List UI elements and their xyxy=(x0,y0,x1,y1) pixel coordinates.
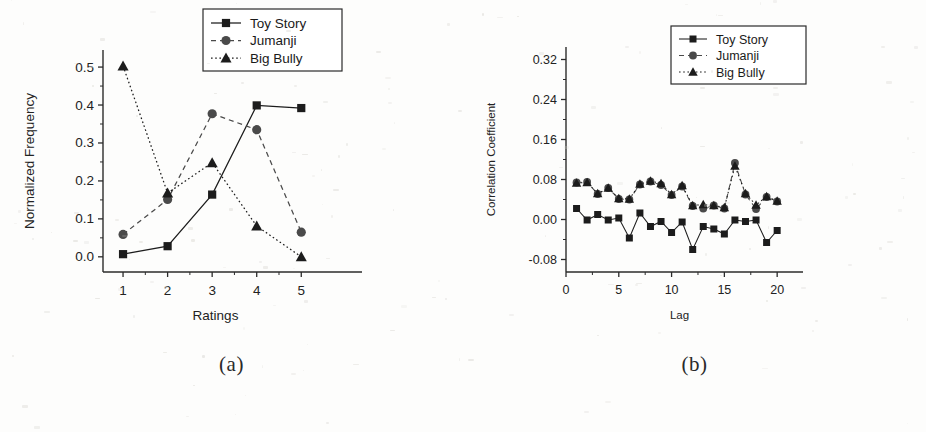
scan-speck xyxy=(22,405,28,408)
scan-speck xyxy=(766,300,768,302)
scan-speck xyxy=(100,38,105,41)
y-tick-label: 0.3 xyxy=(75,135,94,150)
data-point xyxy=(208,190,216,198)
data-point xyxy=(119,250,127,258)
scan-speck xyxy=(388,88,390,90)
scan-speck xyxy=(907,423,908,424)
scan-speck xyxy=(202,355,205,358)
x-tick-label: 3 xyxy=(208,283,216,298)
scan-speck xyxy=(259,261,262,263)
legend-label: Jumanji xyxy=(250,33,297,48)
scan-speck xyxy=(193,385,195,386)
scan-speck xyxy=(887,241,893,243)
data-point xyxy=(721,231,728,238)
x-tick-label: 2 xyxy=(164,283,172,298)
scan-speck xyxy=(32,238,34,240)
scan-speck xyxy=(482,13,484,16)
data-point xyxy=(252,125,261,134)
scan-speck xyxy=(338,155,340,158)
scan-speck xyxy=(129,259,130,260)
data-point xyxy=(679,219,686,226)
scan-speck xyxy=(51,232,52,233)
scan-speck xyxy=(797,218,802,221)
data-point xyxy=(731,217,738,224)
scan-speck xyxy=(92,85,94,87)
scan-speck xyxy=(191,239,195,242)
legend-label: Big Bully xyxy=(250,51,303,66)
y-tick-label: 0.16 xyxy=(533,133,557,147)
y-tick-label: 0.08 xyxy=(533,173,557,187)
scan-speck xyxy=(385,77,391,79)
scan-speck xyxy=(236,3,237,4)
y-axis-title: Correlation Coefficient xyxy=(485,102,497,216)
scan-speck xyxy=(122,235,127,237)
scan-speck xyxy=(390,330,395,331)
data-point xyxy=(753,217,760,224)
data-point xyxy=(636,210,643,217)
scan-speck xyxy=(605,401,611,403)
scan-speck xyxy=(881,297,887,299)
scan-speck xyxy=(636,283,642,284)
scan-speck xyxy=(745,72,750,75)
data-point xyxy=(668,229,675,236)
scan-speck xyxy=(773,93,779,96)
scan-speck xyxy=(133,315,135,318)
scan-speck xyxy=(539,52,544,55)
chart-a: 0.00.10.20.30.40.512345RatingsNormalized… xyxy=(0,0,463,352)
data-point xyxy=(251,221,262,231)
scan-speck xyxy=(214,93,217,94)
caption-a: (a) xyxy=(0,352,463,377)
scan-speck xyxy=(726,202,730,204)
scan-speck xyxy=(303,370,304,371)
scan-speck xyxy=(44,311,50,313)
scan-speck xyxy=(223,267,226,268)
data-point xyxy=(626,235,633,242)
scan-speck xyxy=(245,395,246,396)
series-jumanji xyxy=(118,109,305,239)
series-jumanji xyxy=(573,159,781,213)
scan-speck xyxy=(597,335,599,336)
x-tick-label: 5 xyxy=(298,283,306,298)
data-point xyxy=(296,251,307,261)
x-tick-label: 20 xyxy=(770,283,784,297)
scan-speck xyxy=(853,193,856,195)
data-point xyxy=(774,227,781,234)
scan-speck xyxy=(95,298,100,299)
scan-speck xyxy=(720,275,722,276)
scan-speck xyxy=(447,23,450,26)
scan-speck xyxy=(163,352,167,353)
legend-marker xyxy=(221,36,230,45)
scan-speck xyxy=(903,196,904,199)
legend: Toy StoryJumanjiBig Bully xyxy=(671,26,806,84)
scan-speck xyxy=(635,284,638,286)
data-point xyxy=(208,109,217,118)
legend-marker xyxy=(690,36,697,43)
y-tick-label: 0.4 xyxy=(75,98,94,113)
x-axis-title: Ratings xyxy=(193,308,239,323)
scan-speck xyxy=(661,127,662,129)
scan-speck xyxy=(321,169,322,171)
x-tick-label: 5 xyxy=(615,283,622,297)
series-line xyxy=(123,105,301,254)
data-point xyxy=(658,218,665,225)
scan-speck xyxy=(812,330,814,332)
series-big-bully xyxy=(118,60,307,261)
scan-speck xyxy=(801,287,806,289)
scan-speck xyxy=(912,152,915,153)
scan-speck xyxy=(773,0,777,3)
scan-speck xyxy=(749,248,751,250)
scan-speck xyxy=(207,63,210,64)
data-point xyxy=(742,218,749,225)
data-point xyxy=(647,223,654,230)
data-point xyxy=(297,104,305,112)
scan-speck xyxy=(186,416,189,417)
x-tick-label: 4 xyxy=(253,283,261,298)
scan-speck xyxy=(322,204,323,205)
scan-speck xyxy=(74,212,79,214)
scan-speck xyxy=(773,87,778,89)
data-point xyxy=(573,205,580,212)
scan-speck xyxy=(89,66,93,68)
x-axis-title: Lag xyxy=(670,309,689,321)
legend: Toy StoryJumanjiBig Bully xyxy=(203,9,342,71)
scan-speck xyxy=(704,204,710,207)
